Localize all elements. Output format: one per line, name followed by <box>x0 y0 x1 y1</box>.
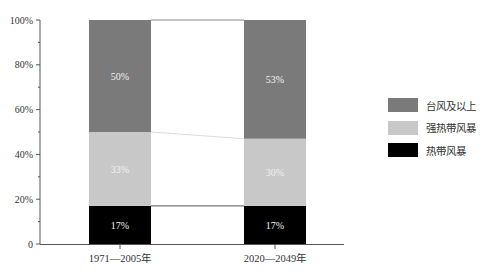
legend-swatch-tropical-storm <box>388 143 418 157</box>
y-tick-label: 40% <box>15 149 33 160</box>
legend-item-typhoon: 台风及以上 <box>388 94 476 117</box>
x-categories: 1971—2005年2020—2049年 <box>89 244 307 264</box>
y-tick-label: 20% <box>15 194 33 205</box>
legend-label-severe-tropical-storm: 强热带风暴 <box>426 120 476 135</box>
segment-value-label: 33% <box>111 164 129 175</box>
connector-lines <box>151 20 244 206</box>
y-tick-label: 60% <box>15 104 33 115</box>
segment-value-label: 17% <box>266 220 284 231</box>
x-category-label: 1971—2005年 <box>89 252 152 264</box>
segment-value-label: 17% <box>111 220 129 231</box>
bars: 17%33%50%17%30%53% <box>89 20 306 244</box>
legend-label-tropical-storm: 热带风暴 <box>426 143 466 158</box>
segment-value-label: 53% <box>266 74 284 85</box>
legend-item-severe-tropical-storm: 强热带风暴 <box>388 117 476 140</box>
legend-label-typhoon: 台风及以上 <box>426 98 476 113</box>
segment-value-label: 50% <box>111 71 129 82</box>
y-tick-label: 100% <box>10 15 33 26</box>
legend-swatch-typhoon <box>388 98 418 112</box>
connector-line <box>151 132 244 139</box>
y-ticks: 020%40%60%80%100% <box>10 15 40 250</box>
segment-value-label: 30% <box>266 167 284 178</box>
legend: 台风及以上 强热带风暴 热带风暴 <box>388 94 476 162</box>
y-tick-label: 0 <box>28 239 33 250</box>
legend-item-tropical-storm: 热带风暴 <box>388 139 476 162</box>
x-category-label: 2020—2049年 <box>244 252 307 264</box>
legend-swatch-severe-tropical-storm <box>388 121 418 135</box>
y-tick-label: 80% <box>15 59 33 70</box>
